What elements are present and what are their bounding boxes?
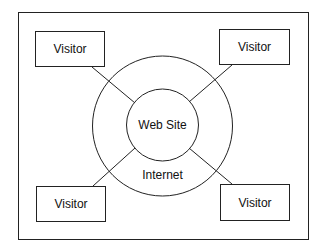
internet-diagram: Web Site Internet Visitor Visitor Visito…: [0, 0, 325, 245]
visitor-box-top-left: Visitor: [36, 32, 105, 67]
website-label: Web Site: [138, 118, 187, 132]
internet-label: Internet: [142, 168, 183, 182]
connector-bottom-left: [93, 148, 135, 186]
visitor-label: Visitor: [238, 196, 271, 210]
connector-bottom-right: [189, 148, 232, 184]
visitor-box-top-right: Visitor: [220, 30, 290, 65]
visitor-box-bottom-left: Visitor: [37, 187, 106, 222]
visitor-label: Visitor: [238, 40, 271, 54]
visitor-label: Visitor: [54, 197, 87, 211]
visitor-box-bottom-right: Visitor: [221, 185, 290, 221]
visitor-label: Visitor: [53, 42, 86, 56]
